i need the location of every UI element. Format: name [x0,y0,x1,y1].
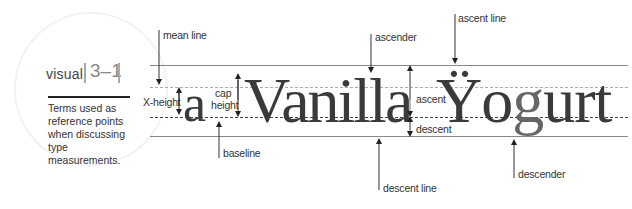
label-descent-line: descent line [383,182,437,194]
label-baseline: baseline [223,147,261,159]
label-descent: descent [416,123,451,135]
label-descender: descender [518,168,565,180]
label-cap-height-2: height [211,99,238,111]
label-mean-line: mean line [163,29,207,41]
label-ascent: ascent [416,93,446,105]
label-ascender: ascender [375,31,417,43]
label-ascent-line: ascent line [458,12,506,24]
label-cap-height-1: cap [215,87,231,99]
label-x-height: X-height [143,96,181,108]
